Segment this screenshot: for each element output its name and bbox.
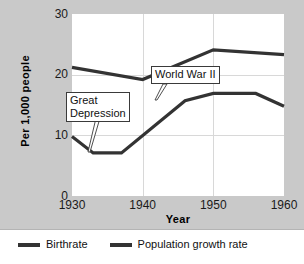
source-text-cropped <box>10 256 190 263</box>
annotation-world-war-ii: World War II <box>151 66 220 84</box>
legend-item-population-growth-rate: Population growth rate <box>110 239 248 250</box>
legend-swatch-birthrate <box>18 243 40 247</box>
chart-area: 30 20 10 0 Per 1,000 people <box>0 0 304 228</box>
leader-world-war-ii <box>155 84 167 100</box>
annotation-great-depression-line2: Depression <box>70 107 126 120</box>
legend-item-birthrate: Birthrate <box>18 239 88 250</box>
legend-swatch-population-growth-rate <box>110 243 132 247</box>
annotation-great-depression-line1: Great <box>70 94 126 107</box>
leader-great-depression <box>88 118 100 152</box>
legend-label-population-growth-rate: Population growth rate <box>138 239 248 250</box>
annotation-leader-lines <box>0 0 304 228</box>
legend-label-birthrate: Birthrate <box>46 239 88 250</box>
legend-items: Birthrate Population growth rate <box>18 239 248 250</box>
annotation-great-depression: Great Depression <box>66 92 130 122</box>
